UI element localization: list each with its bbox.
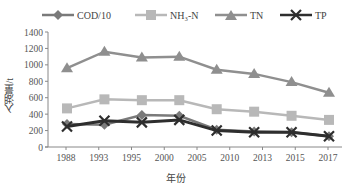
data-point	[62, 103, 72, 113]
y-tick-label: 1000	[24, 60, 43, 70]
x-tick-label: 2015	[286, 153, 305, 163]
data-point	[137, 95, 147, 105]
y-tick-label: 200	[29, 126, 44, 136]
x-tick-label: 1988	[57, 153, 76, 163]
series-tn	[61, 46, 335, 97]
line-chart: 0200400600800100012001400198819931995200…	[0, 0, 352, 186]
x-tick-label: 2017	[319, 153, 338, 163]
x-tick-label: 2010	[220, 153, 239, 163]
x-tick-label: 1995	[122, 153, 141, 163]
y-tick-label: 800	[29, 77, 44, 87]
y-axis-label: 入湖量/t	[2, 78, 16, 114]
y-tick-label: 600	[29, 93, 44, 103]
y-tick-label: 0	[38, 143, 43, 153]
y-tick-label: 1200	[24, 44, 43, 54]
data-point	[249, 107, 259, 117]
x-axis-label: 年份	[0, 170, 352, 185]
data-point	[324, 115, 334, 125]
data-point	[174, 95, 184, 105]
x-tick-label: 1993	[89, 153, 108, 163]
y-tick-label: 1400	[24, 28, 43, 38]
data-point	[212, 104, 222, 114]
x-tick-label: 2013	[253, 153, 272, 163]
data-point	[287, 111, 297, 121]
y-tick-label: 400	[29, 110, 44, 120]
x-tick-label: 2000	[155, 153, 174, 163]
x-tick-label: 2005	[188, 153, 207, 163]
data-point	[98, 46, 110, 56]
data-point	[99, 94, 109, 104]
